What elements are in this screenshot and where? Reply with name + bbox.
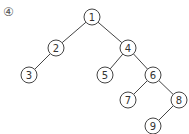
tree-node-4: 4 [120, 40, 136, 56]
tree-node-6: 6 [145, 67, 161, 83]
svg-text:1: 1 [89, 12, 95, 23]
svg-text:6: 6 [150, 70, 156, 81]
svg-text:8: 8 [176, 95, 182, 106]
edge-8-9 [159, 106, 174, 121]
tree-node-8: 8 [171, 92, 187, 108]
svg-text:5: 5 [102, 70, 108, 81]
tree-node-7: 7 [120, 92, 136, 108]
edge-6-7 [134, 81, 148, 95]
edge-4-5 [110, 54, 123, 69]
svg-text:7: 7 [125, 95, 131, 106]
tree-node-3: 3 [21, 67, 37, 83]
svg-text:9: 9 [150, 121, 156, 132]
svg-text:2: 2 [53, 43, 59, 54]
edge-2-3 [35, 54, 51, 70]
edge-6-8 [159, 81, 173, 95]
edge-1-4 [98, 22, 122, 43]
tree-node-2: 2 [48, 40, 64, 56]
binary-tree-diagram: 123456789 [0, 0, 189, 134]
tree-node-5: 5 [97, 67, 113, 83]
svg-text:3: 3 [26, 70, 32, 81]
tree-node-9: 9 [145, 118, 161, 134]
tree-node-1: 1 [84, 9, 100, 25]
svg-text:4: 4 [125, 43, 131, 54]
edge-4-6 [133, 54, 147, 69]
edge-1-2 [62, 22, 86, 43]
